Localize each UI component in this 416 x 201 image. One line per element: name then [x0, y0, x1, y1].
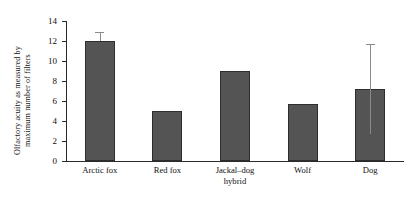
x-axis-line	[66, 161, 404, 162]
bar-chart-figure: Olfactory acuity as measured by maximum …	[0, 0, 416, 201]
y-axis-tick: 12	[62, 41, 66, 42]
y-axis-title: Olfactory acuity as measured by maximum …	[0, 0, 46, 201]
error-bar-line	[370, 44, 371, 134]
y-axis-tick-label: 14	[48, 16, 57, 26]
y-axis-tick: 0	[62, 161, 66, 162]
y-axis-tick: 6	[62, 101, 66, 102]
y-axis-title-line-1: Olfactory acuity as measured by	[13, 46, 24, 155]
x-axis-category-label: Dog	[363, 165, 378, 176]
y-axis-tick: 4	[62, 121, 66, 122]
y-axis-tick-label: 8	[53, 76, 58, 86]
y-axis-tick: 2	[62, 141, 66, 142]
y-axis-tick-label: 2	[53, 136, 58, 146]
y-axis-tick: 10	[62, 61, 66, 62]
bar	[152, 111, 182, 161]
y-axis-tick: 8	[62, 81, 66, 82]
x-axis-category-label: Wolf	[294, 165, 311, 176]
bar	[85, 41, 115, 161]
bar	[288, 104, 318, 161]
y-axis-tick: 14	[62, 21, 66, 22]
y-axis-tick-label: 0	[53, 156, 58, 166]
x-axis-category-label: Jackal–dog hybrid	[216, 165, 255, 186]
y-axis-line	[66, 21, 67, 162]
bar	[220, 71, 250, 161]
error-bar-line	[100, 32, 101, 41]
y-axis-title-line-2: maximum number of filters	[23, 46, 34, 155]
error-bar-cap-upper	[366, 44, 375, 45]
y-axis-tick-label: 10	[48, 56, 57, 66]
error-bar-cap-upper	[95, 32, 104, 33]
y-axis-tick-label: 12	[48, 36, 57, 46]
y-axis-tick-label: 4	[53, 116, 58, 126]
plot-area: 02468101214 Arctic foxRed foxJackal–dog …	[66, 21, 404, 162]
y-axis-tick-label: 6	[53, 96, 58, 106]
x-axis-category-label: Arctic fox	[82, 165, 117, 176]
x-axis-category-label: Red fox	[154, 165, 181, 176]
